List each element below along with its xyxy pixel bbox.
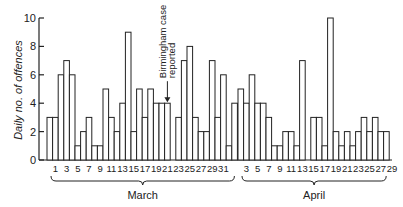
- y-tick-label: 10: [24, 12, 36, 24]
- bar: [53, 117, 59, 160]
- bar: [47, 117, 53, 160]
- x-tick-label: 27: [376, 163, 387, 174]
- bar: [81, 132, 87, 160]
- bar: [148, 89, 154, 160]
- bar: [260, 103, 266, 160]
- down-arrow-icon: [164, 97, 170, 102]
- x-tick-label: 19: [331, 163, 342, 174]
- y-tick-label: 0: [30, 154, 36, 166]
- bar: [350, 146, 356, 160]
- y-axis-label: Daily no. of offences: [12, 40, 24, 140]
- bar: [97, 146, 103, 160]
- bar: [114, 132, 120, 160]
- bar: [367, 132, 373, 160]
- bar: [159, 103, 165, 160]
- bar: [311, 117, 317, 160]
- bar: [176, 117, 182, 160]
- x-tick-label: 5: [255, 163, 260, 174]
- bar: [244, 103, 250, 160]
- x-tick-label: 7: [266, 163, 271, 174]
- bar: [131, 132, 137, 160]
- bar: [356, 132, 362, 160]
- x-tick-label: 7: [86, 163, 91, 174]
- x-tick-label: 31: [218, 163, 229, 174]
- bar: [339, 146, 345, 160]
- bar: [344, 132, 350, 160]
- bar: [198, 132, 204, 160]
- bar: [125, 32, 131, 160]
- bar: [316, 117, 322, 160]
- bar: [238, 89, 244, 160]
- bar: [69, 75, 75, 160]
- birmingham-annotation: Birmingham casereported: [157, 5, 177, 102]
- bar: [181, 61, 187, 160]
- month-label: April: [303, 189, 325, 201]
- bar: [153, 103, 159, 160]
- bar: [187, 46, 193, 160]
- x-tick-label: 9: [98, 163, 103, 174]
- bar: [137, 89, 143, 160]
- x-tick-label: 15: [308, 163, 319, 174]
- x-tick-label: 11: [286, 163, 296, 174]
- month-label: March: [127, 189, 158, 201]
- x-tick-label: 17: [320, 163, 331, 174]
- x-tick-label: 3: [244, 163, 249, 174]
- bar: [120, 103, 126, 160]
- bar: [384, 132, 390, 160]
- bar: [209, 61, 215, 160]
- x-tick-label: 1: [53, 163, 58, 174]
- x-tick-labels: 1357911131517192123252729313579111315171…: [53, 163, 398, 174]
- bar: [322, 146, 328, 160]
- y-tick-label: 2: [30, 126, 36, 138]
- bar: [193, 117, 199, 160]
- bar: [92, 146, 98, 160]
- x-tick-label: 27: [196, 163, 207, 174]
- bar: [64, 61, 70, 160]
- x-tick-label: 25: [364, 163, 375, 174]
- offences-bar-chart: 0246810 Daily no. of offences 1357911131…: [0, 0, 403, 207]
- annotation-text: reported: [166, 43, 177, 78]
- bar: [288, 132, 294, 160]
- x-tick-label: 15: [129, 163, 140, 174]
- bar: [300, 61, 306, 160]
- x-tick-label: 25: [185, 163, 196, 174]
- bar: [277, 146, 283, 160]
- bar: [283, 132, 289, 160]
- x-tick-label: 11: [106, 163, 116, 174]
- month-brace: [51, 176, 234, 185]
- bar: [294, 146, 300, 160]
- bar: [333, 132, 339, 160]
- bar: [75, 146, 81, 160]
- y-tick-label: 8: [30, 40, 36, 52]
- bar: [58, 75, 64, 160]
- bar: [165, 103, 171, 160]
- bar: [372, 117, 378, 160]
- x-tick-label: 9: [277, 163, 282, 174]
- month-brace: [242, 176, 386, 185]
- bar: [255, 103, 261, 160]
- x-tick-label: 13: [297, 163, 308, 174]
- y-tick-label: 6: [30, 69, 36, 81]
- x-tick-label: 29: [207, 163, 218, 174]
- bar: [378, 132, 384, 160]
- bar: [142, 117, 148, 160]
- bar: [266, 117, 272, 160]
- x-tick-label: 13: [117, 163, 128, 174]
- bar: [328, 18, 334, 160]
- x-tick-label: 19: [151, 163, 162, 174]
- bar: [215, 117, 221, 160]
- x-tick-label: 17: [140, 163, 151, 174]
- x-tick-label: 3: [64, 163, 69, 174]
- y-tick-label: 4: [30, 97, 36, 109]
- bar: [249, 75, 255, 160]
- x-tick-label: 21: [162, 163, 173, 174]
- month-braces: MarchApril: [51, 176, 386, 201]
- x-tick-label: 23: [353, 163, 364, 174]
- bar: [221, 75, 227, 160]
- bar: [226, 146, 232, 160]
- bar: [272, 146, 278, 160]
- x-tick-label: 23: [173, 163, 184, 174]
- x-tick-label: 21: [342, 163, 353, 174]
- bar: [204, 132, 210, 160]
- bars: [47, 18, 389, 160]
